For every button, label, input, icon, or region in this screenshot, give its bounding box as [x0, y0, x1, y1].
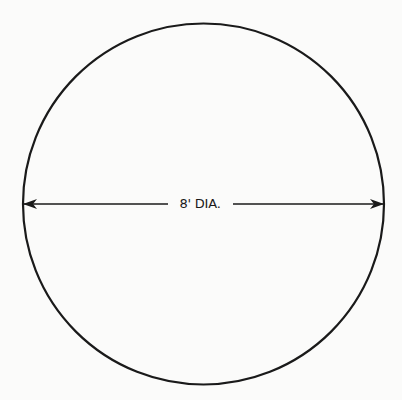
diagram-canvas: 8' DIA.	[0, 0, 402, 400]
diameter-label: 8' DIA.	[168, 195, 232, 213]
